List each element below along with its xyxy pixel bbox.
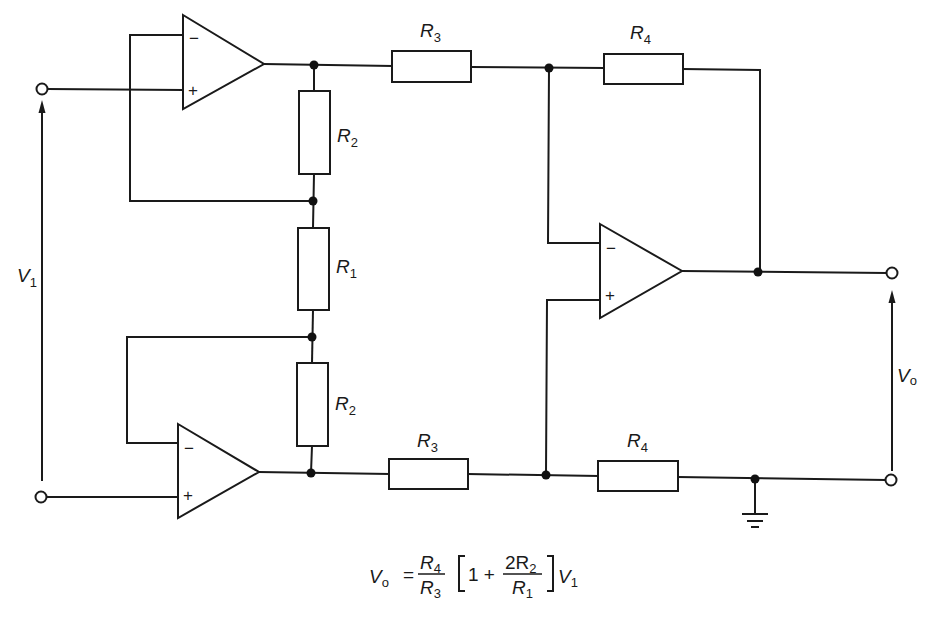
- junction-dot-icon: [309, 197, 318, 206]
- opamp-plus-sign: +: [188, 81, 198, 100]
- eq-frac1-den: R3: [420, 577, 441, 601]
- eq-frac2-den: R1: [512, 577, 533, 601]
- wire-top-output: [264, 64, 392, 66]
- label-r4-top: R4: [630, 22, 651, 47]
- eq-frac2-num: 2R2: [505, 552, 537, 576]
- input-terminal-top-icon: [37, 84, 48, 95]
- gain-equation: Vo = R4 R3 1 + 2R2 R1 V1: [369, 552, 578, 601]
- wire-r3bottom-r4bottom: [468, 474, 598, 476]
- ground-icon: [743, 514, 767, 527]
- wire-diff-minus: [548, 68, 600, 243]
- junction-dot-icon: [754, 268, 763, 277]
- resistor-r4-top: [604, 54, 683, 84]
- output-terminal-bottom-icon: [886, 475, 897, 486]
- eq-bracket-open-icon: [459, 556, 465, 591]
- eq-rhs: V1: [558, 566, 578, 590]
- opamp-plus-sign: +: [605, 286, 615, 305]
- wire-diff-plus: [546, 300, 600, 475]
- opamp-difference: − +: [600, 224, 682, 318]
- junction-dot-icon: [308, 333, 317, 342]
- wire-diff-output: [682, 271, 886, 273]
- resistor-r1: [298, 228, 329, 310]
- label-r1: R1: [336, 256, 357, 281]
- output-terminal-top-icon: [887, 268, 898, 279]
- eq-one-plus: 1 +: [468, 564, 495, 585]
- input-voltage-arrow-icon: [39, 100, 46, 480]
- label-output-voltage: Vo: [897, 365, 917, 388]
- junction-dot-icon: [310, 61, 319, 70]
- wire-r4top-feedback: [683, 69, 760, 272]
- junction-dot-icon: [545, 64, 554, 73]
- junction-dot-icon: [751, 475, 760, 484]
- output-voltage-arrow-icon: [889, 290, 896, 470]
- opamp-minus-sign: −: [606, 239, 616, 258]
- resistor-r2-bottom: [297, 363, 328, 446]
- resistor-r3-top: [392, 51, 471, 82]
- label-input-voltage: V1: [17, 265, 37, 290]
- eq-equals: =: [403, 564, 414, 585]
- opamp-minus-sign: −: [184, 439, 194, 458]
- wire-bottom-feedback: [127, 337, 312, 443]
- input-terminal-bottom-icon: [36, 492, 47, 503]
- wire-bottom-output: [259, 472, 389, 474]
- wire-input-top: [48, 89, 183, 90]
- junction-dot-icon: [307, 469, 316, 478]
- eq-bracket-close-icon: [547, 556, 553, 591]
- wire-r4bottom-ground: [678, 477, 885, 480]
- label-r2-top: R2: [337, 125, 358, 150]
- resistor-r3-bottom: [389, 459, 468, 489]
- opamp-plus-sign: +: [183, 486, 193, 505]
- circuit-diagram: − + − + − + R2 R1 R2: [0, 0, 941, 619]
- resistor-r4-bottom: [598, 461, 678, 491]
- opamp-top: − +: [183, 15, 264, 109]
- terminals: [36, 84, 898, 503]
- label-r4-bottom: R4: [627, 430, 648, 455]
- eq-frac1-num: R4: [420, 552, 441, 576]
- opamp-minus-sign: −: [189, 29, 199, 48]
- label-r3-bottom: R3: [417, 430, 438, 455]
- label-r3-top: R3: [420, 20, 441, 45]
- resistor-r2-top: [299, 91, 330, 174]
- junction-dot-icon: [542, 471, 551, 480]
- label-r2-bottom: R2: [335, 393, 356, 418]
- eq-lhs: Vo: [369, 566, 389, 590]
- wire-r3top-r4top: [471, 67, 604, 68]
- opamp-bottom: − +: [178, 424, 259, 518]
- component-labels: R2 R1 R2 R3 R3 R4 R4 V1 Vo: [17, 20, 917, 455]
